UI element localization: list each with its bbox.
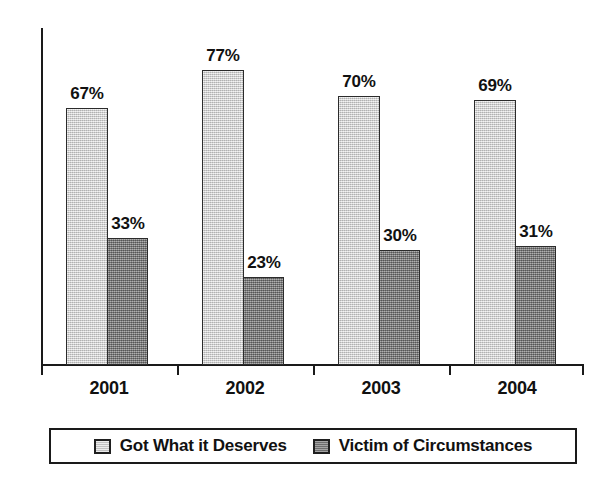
legend-entry-got-what-it-deserves: Got What it Deserves bbox=[94, 436, 287, 456]
value-label-got-what-it-deserves-2001: 67% bbox=[57, 84, 117, 104]
value-label-victim-of-circumstances-2002: 23% bbox=[234, 253, 294, 273]
x-axis-label-2001: 2001 bbox=[79, 378, 139, 399]
legend-label-got-what-it-deserves: Got What it Deserves bbox=[120, 436, 287, 456]
value-label-victim-of-circumstances-2003: 30% bbox=[370, 226, 430, 246]
x-axis-label-2003: 2003 bbox=[351, 378, 411, 399]
value-label-got-what-it-deserves-2003: 70% bbox=[329, 72, 389, 92]
chart-legend: Got What it Deserves Victim of Circumsta… bbox=[49, 428, 577, 464]
bar-victim-of-circumstances-2002 bbox=[243, 277, 284, 365]
bar-victim-of-circumstances-2003 bbox=[379, 250, 420, 365]
bar-got-what-it-deserves-2002 bbox=[202, 70, 244, 365]
value-label-victim-of-circumstances-2004: 31% bbox=[506, 222, 566, 242]
x-axis-label-2004: 2004 bbox=[487, 378, 547, 399]
bar-victim-of-circumstances-2004 bbox=[515, 246, 556, 365]
x-axis-tick bbox=[449, 366, 451, 375]
y-axis-line bbox=[41, 28, 43, 367]
legend-swatch-light-gray-icon bbox=[94, 439, 111, 454]
legend-swatch-dark-gray-icon bbox=[313, 439, 330, 454]
x-axis-label-2002: 2002 bbox=[215, 378, 275, 399]
bar-chart: 67% 33% 77% 23% 70% 30% 69% 31% 2001 200… bbox=[0, 0, 614, 483]
legend-label-victim-of-circumstances: Victim of Circumstances bbox=[339, 436, 533, 456]
x-axis-tick bbox=[177, 366, 179, 375]
value-label-got-what-it-deserves-2002: 77% bbox=[193, 46, 253, 66]
bar-victim-of-circumstances-2001 bbox=[107, 238, 148, 365]
x-axis-tick bbox=[313, 366, 315, 375]
bar-got-what-it-deserves-2001 bbox=[66, 108, 108, 365]
value-label-victim-of-circumstances-2001: 33% bbox=[98, 214, 158, 234]
value-label-got-what-it-deserves-2004: 69% bbox=[465, 76, 525, 96]
plot-area: 67% 33% 77% 23% 70% 30% 69% 31% 2001 200… bbox=[0, 0, 614, 400]
x-axis-tick bbox=[41, 366, 43, 375]
x-axis-tick bbox=[582, 366, 584, 375]
legend-entry-victim-of-circumstances: Victim of Circumstances bbox=[313, 436, 533, 456]
